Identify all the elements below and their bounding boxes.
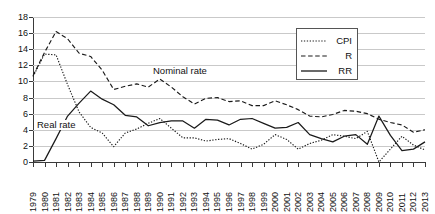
interest-rate-line-chart: 181614121086420 197919801981198219831984… — [0, 0, 435, 214]
x-tick-label: 1992 — [179, 192, 188, 212]
y-tick-mark — [29, 146, 33, 147]
x-tick-mark — [356, 163, 357, 167]
x-tick-mark — [344, 163, 345, 167]
x-tick-mark — [194, 163, 195, 167]
x-tick-mark — [125, 163, 126, 167]
legend-swatch-cpi-icon — [301, 36, 327, 45]
series-line-cpi — [33, 54, 425, 162]
x-tick-label: 1995 — [213, 192, 222, 212]
y-tick-mark — [29, 17, 33, 18]
y-tick-label: 10 — [8, 77, 28, 86]
x-tick-mark — [79, 163, 80, 167]
x-tick-label: 1997 — [237, 192, 246, 212]
y-tick-mark — [29, 49, 33, 50]
x-tick-label: 1987 — [121, 192, 130, 212]
x-tick-label: 1983 — [75, 192, 84, 212]
annotation-real-rate: Real rate — [36, 120, 77, 130]
x-tick-mark — [321, 163, 322, 167]
x-axis-labels: 1979198019811982198319841985198619871988… — [33, 168, 425, 212]
x-tick-mark — [333, 163, 334, 167]
x-tick-label: 2004 — [317, 192, 326, 212]
y-tick-mark — [29, 81, 33, 82]
x-tick-mark — [229, 163, 230, 167]
y-tick-mark — [29, 65, 33, 66]
y-tick-label: 8 — [8, 94, 28, 103]
x-tick-label: 1980 — [41, 192, 50, 212]
y-tick-mark — [29, 33, 33, 34]
x-tick-label: 1993 — [190, 192, 199, 212]
x-tick-mark — [206, 163, 207, 167]
x-tick-label: 1981 — [52, 192, 61, 212]
x-tick-label: 1999 — [260, 192, 269, 212]
legend-item-cpi[interactable]: CPI — [301, 33, 354, 48]
x-tick-mark — [217, 163, 218, 167]
y-tick-label: 2 — [8, 142, 28, 151]
x-tick-mark — [102, 163, 103, 167]
x-tick-mark — [390, 163, 391, 167]
x-tick-mark — [379, 163, 380, 167]
x-tick-label: 1986 — [110, 192, 119, 212]
x-tick-mark — [148, 163, 149, 167]
x-tick-label: 1989 — [144, 192, 153, 212]
x-tick-mark — [33, 163, 34, 167]
y-tick-label: 0 — [8, 158, 28, 167]
x-tick-mark — [56, 163, 57, 167]
legend-swatch-rr-icon — [301, 66, 327, 75]
x-tick-label: 2006 — [340, 192, 349, 212]
x-tick-label: 2009 — [375, 192, 384, 212]
legend-item-r[interactable]: R — [301, 48, 354, 63]
x-tick-label: 1996 — [225, 192, 234, 212]
x-tick-label: 2012 — [409, 192, 418, 212]
x-tick-label: 1984 — [87, 192, 96, 212]
x-tick-mark — [68, 163, 69, 167]
legend-label: RR — [330, 66, 354, 76]
x-tick-label: 1979 — [29, 192, 38, 212]
x-tick-label: 1985 — [98, 192, 107, 212]
x-tick-mark — [298, 163, 299, 167]
x-tick-label: 2008 — [363, 192, 372, 212]
x-tick-mark — [413, 163, 414, 167]
x-tick-label: 2011 — [398, 193, 407, 212]
x-tick-mark — [241, 163, 242, 167]
y-tick-label: 14 — [8, 45, 28, 54]
x-tick-mark — [171, 163, 172, 167]
x-tick-label: 2005 — [329, 192, 338, 212]
x-tick-mark — [425, 163, 426, 167]
legend-swatch-r-icon — [301, 51, 327, 60]
x-tick-label: 2001 — [283, 192, 292, 212]
x-tick-mark — [264, 163, 265, 167]
y-tick-mark — [29, 130, 33, 131]
y-tick-label: 16 — [8, 29, 28, 38]
y-tick-label: 12 — [8, 61, 28, 70]
y-tick-mark — [29, 162, 33, 163]
x-tick-label: 2002 — [294, 192, 303, 212]
legend-item-rr[interactable]: RR — [301, 63, 354, 78]
annotation-nominal-rate: Nominal rate — [152, 66, 208, 76]
x-tick-label: 1988 — [133, 192, 142, 212]
x-tick-label: 2007 — [352, 192, 361, 212]
x-tick-label: 1994 — [202, 192, 211, 212]
x-tick-label: 1998 — [248, 192, 257, 212]
x-tick-mark — [402, 163, 403, 167]
series-line-r — [33, 32, 425, 133]
x-tick-label: 1982 — [64, 192, 73, 212]
y-tick-label: 18 — [8, 13, 28, 22]
y-tick-mark — [29, 98, 33, 99]
legend-label: CPI — [330, 36, 354, 46]
chart-legend: CPIRRR — [296, 28, 358, 80]
x-tick-label: 2000 — [271, 192, 280, 212]
x-tick-mark — [287, 163, 288, 167]
x-tick-label: 1991 — [167, 192, 176, 212]
x-tick-mark — [45, 163, 46, 167]
x-tick-label: 2013 — [421, 192, 430, 212]
x-tick-mark — [160, 163, 161, 167]
x-tick-mark — [114, 163, 115, 167]
y-tick-label: 6 — [8, 110, 28, 119]
x-tick-label: 1990 — [156, 192, 165, 212]
x-tick-label: 2010 — [386, 192, 395, 212]
y-axis-labels: 181614121086420 — [0, 0, 28, 214]
x-tick-mark — [252, 163, 253, 167]
x-tick-mark — [91, 163, 92, 167]
x-tick-mark — [183, 163, 184, 167]
series-layer — [33, 17, 425, 162]
